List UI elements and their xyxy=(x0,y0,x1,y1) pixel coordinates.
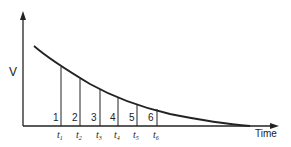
tick-label-t6: t6 xyxy=(153,129,159,141)
y-axis-label: V xyxy=(9,65,17,79)
tick-labels: t1 t2 t3 t4 t5 t6 xyxy=(57,129,159,141)
x-axis-label: Time xyxy=(255,128,277,139)
tick-label-t4: t4 xyxy=(114,129,120,141)
tick-label-t2: t2 xyxy=(76,129,82,141)
segment-number-3: 3 xyxy=(91,112,97,123)
segment-number-4: 4 xyxy=(110,112,116,123)
tick-label-t3: t3 xyxy=(96,129,102,141)
y-axis-arrow-icon xyxy=(20,11,26,20)
decay-curve xyxy=(34,46,250,126)
segment-number-2: 2 xyxy=(72,112,78,123)
segment-number-5: 5 xyxy=(129,112,135,123)
segment-number-1: 1 xyxy=(53,112,59,123)
decay-diagram: V Time 1 2 3 4 5 6 t1 t2 t3 t4 t5 t6 xyxy=(0,0,291,147)
tick-label-t1: t1 xyxy=(57,129,63,141)
segment-number-6: 6 xyxy=(148,112,154,123)
tick-label-t5: t5 xyxy=(133,129,139,141)
